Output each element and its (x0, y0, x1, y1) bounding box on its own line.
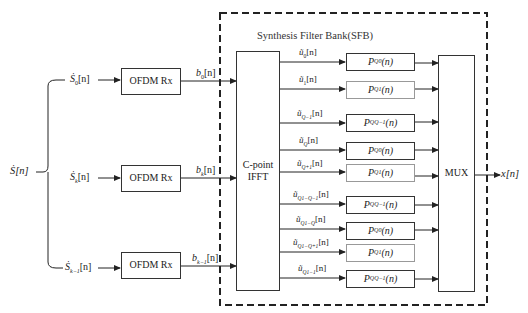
filter-block-2: PQQ−1(n) (346, 114, 415, 132)
ifft-block: C-point IFFT (236, 51, 280, 291)
p0-tail: (n) (381, 56, 393, 69)
ifft-label-line1: C-point (243, 159, 274, 172)
p3-tail: (n) (381, 145, 393, 158)
p1-tail: (n) (381, 84, 393, 97)
sk-tail: [n] (78, 171, 90, 182)
ofdm-rx-label: OFDM Rx (129, 259, 172, 272)
ofdm-rx-label: OFDM Rx (129, 172, 172, 185)
filter-block-0: PQ0(n) (346, 53, 415, 71)
p6-tail: (n) (381, 225, 393, 238)
ofdm-rx-block-k: OFDM Rx (121, 165, 181, 192)
bk-tail: [n] (204, 164, 216, 175)
u7-sub: Q1−Q+1 (298, 243, 319, 249)
sk1-tail: [n] (80, 261, 92, 272)
ifft-label-line2: IFFT (248, 171, 269, 184)
p3-sub: Q0 (374, 147, 381, 155)
branch-input-0: Ṡ0[n] (70, 74, 90, 86)
u4-tail: [n] (312, 158, 323, 168)
p1-sub: Q1 (374, 86, 381, 94)
filter-block-5: PQQ−1(n) (346, 196, 415, 214)
u3-tail: [n] (307, 135, 318, 145)
filter-block-8: PQQ−1(n) (346, 270, 415, 288)
b0-tail: [n] (204, 67, 216, 78)
p2-tail: (n) (386, 117, 398, 130)
p7-tail: (n) (381, 247, 393, 260)
u-label-5: ũQ1−Q−1[n] (293, 190, 329, 201)
u5-tail: [n] (318, 189, 329, 199)
branch-input-k: Ṡk[n] (70, 172, 89, 184)
filter-block-3: PQ0(n) (346, 142, 415, 160)
u2-sub: Q−1 (302, 114, 312, 120)
p8-tail: (n) (386, 273, 398, 286)
p8-sub: QQ−1 (370, 275, 386, 283)
ofdm-rx-block-0: OFDM Rx (121, 68, 181, 95)
filter-block-1: PQ1(n) (346, 81, 415, 99)
main-input-label: Ṡ[n] (10, 166, 29, 177)
u-label-7: ũQ1−Q+1[n] (293, 238, 329, 249)
p4-tail: (n) (381, 167, 393, 180)
filter-block-7: PQ1(n) (346, 244, 415, 262)
u1-tail: [n] (306, 74, 317, 84)
u8-tail: [n] (316, 263, 327, 273)
u-label-4: ũQ+1[n] (297, 159, 322, 170)
u4-sub: Q+1 (302, 164, 312, 170)
mux-label: MUX (445, 167, 468, 180)
p7-sub: Q1 (374, 249, 381, 257)
bk1-tail: [n] (207, 252, 219, 263)
bk1-sub: k−1 (197, 259, 207, 265)
s0-tail: [n] (78, 73, 90, 84)
u8-sub: Q1−1 (303, 269, 316, 275)
ofdm-output-k: bk[n] (196, 165, 215, 177)
main-output-label: x[n] (501, 169, 519, 180)
u-label-3: ũQ[n] (299, 136, 318, 147)
u-label-8: ũQ1−1[n] (298, 264, 326, 275)
p0-sub: Q0 (374, 58, 381, 66)
main-output-text: x[n] (501, 168, 519, 179)
u7-tail: [n] (318, 237, 329, 247)
u-label-0: ũ0[n] (299, 48, 317, 59)
p2-sub: QQ−1 (370, 119, 386, 127)
ofdm-rx-block-k-1: OFDM Rx (121, 252, 181, 279)
sk1-sub: k−1 (70, 268, 80, 274)
ofdm-rx-label: OFDM Rx (129, 75, 172, 88)
u-label-2: ũQ−1[n] (297, 109, 322, 120)
branch-input-k-1: Ṡk−1[n] (65, 262, 91, 274)
sfb-title: Synthesis Filter Bank(SFB) (257, 30, 373, 41)
u5-sub: Q1−Q−1 (298, 195, 319, 201)
main-input-text: Ṡ[n] (10, 165, 29, 176)
mux-block: MUX (438, 55, 475, 292)
filter-block-4: PQ1(n) (346, 164, 415, 182)
u2-tail: [n] (312, 108, 323, 118)
u-label-6: ũQ1−Q[n] (296, 215, 325, 226)
u6-sub: Q1−Q (301, 220, 315, 226)
p6-sub: Q0 (374, 227, 381, 235)
filter-block-6: PQ0(n) (346, 222, 415, 240)
u-label-1: ũ1[n] (299, 75, 317, 86)
u6-tail: [n] (315, 214, 326, 224)
u0-tail: [n] (306, 47, 317, 57)
ofdm-output-0: b0[n] (196, 68, 216, 80)
p4-sub: Q1 (374, 169, 381, 177)
ofdm-output-k-1: bk−1[n] (192, 253, 218, 265)
p5-sub: QQ−1 (370, 201, 386, 209)
p5-tail: (n) (386, 199, 398, 212)
